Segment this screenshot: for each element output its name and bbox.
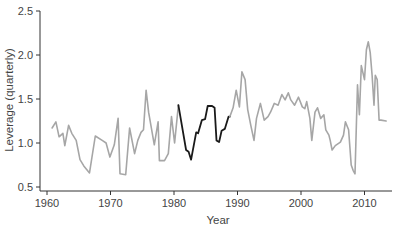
y-tick-label: 0.5 [18,181,33,193]
series-line [52,90,178,175]
y-tick-label: 2.5 [18,5,33,17]
highlighted-series-line [178,105,230,160]
x-tick-label: 1980 [162,197,186,209]
y-tick-label: 1.5 [18,93,33,105]
series-line [230,42,386,174]
x-tick-label: 1960 [35,197,59,209]
x-tick-label: 1990 [225,197,249,209]
y-axis-title: Leverage (quarterly) [3,48,15,152]
x-axis-title: Year [206,214,229,226]
y-axis: 0.51.01.52.02.5 [18,5,40,193]
x-tick-label: 1970 [98,197,122,209]
x-axis: 196019701980199020002010 [35,191,392,209]
x-tick-label: 2010 [352,197,376,209]
y-tick-label: 1.0 [18,137,33,149]
x-tick-label: 2000 [289,197,313,209]
plot-lines [52,42,386,175]
y-tick-label: 2.0 [18,49,33,61]
leverage-line-chart: 0.51.01.52.02.5 196019701980199020002010… [0,0,399,229]
